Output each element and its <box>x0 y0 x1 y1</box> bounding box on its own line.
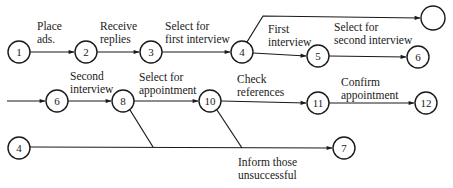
svg-text:replies: replies <box>100 33 131 46</box>
svg-text:ads.: ads. <box>37 33 55 45</box>
svg-text:4: 4 <box>239 46 245 58</box>
svg-text:12: 12 <box>421 97 432 109</box>
svg-text:appointment: appointment <box>341 89 399 102</box>
svg-text:Select for: Select for <box>334 21 379 33</box>
svg-text:First: First <box>268 23 290 35</box>
svg-text:6: 6 <box>54 95 60 107</box>
svg-text:Inform those: Inform those <box>238 156 297 168</box>
svg-text:10: 10 <box>205 95 217 107</box>
svg-text:Receive: Receive <box>100 20 137 32</box>
node-7: 7 <box>333 137 355 159</box>
edge-check-references <box>221 101 306 103</box>
svg-text:unsuccessful: unsuccessful <box>238 169 297 181</box>
label-first-interview: First interview <box>268 23 312 48</box>
label-place-ads: Place ads. <box>37 20 62 45</box>
node-3: 3 <box>140 41 162 63</box>
label-confirm-appointment: Confirm appointment <box>341 76 399 102</box>
node-4: 4 <box>231 41 253 63</box>
edge-merge-from-node-10 <box>217 110 242 148</box>
edge-first-interview <box>253 53 306 56</box>
svg-text:11: 11 <box>313 97 324 109</box>
svg-text:interview: interview <box>268 36 312 48</box>
label-check-references: Check references <box>237 73 285 98</box>
svg-text:2: 2 <box>83 46 89 58</box>
svg-text:references: references <box>237 86 285 98</box>
node-5: 5 <box>307 45 329 67</box>
node-6-row2: 6 <box>46 90 68 112</box>
node-unnumbered <box>421 6 445 30</box>
node-12: 12 <box>415 92 437 114</box>
network-diagram: 1 2 3 4 5 6 6 8 10 11 12 4 7 Place ads. … <box>0 0 453 188</box>
edge-merge-from-node-8 <box>130 110 153 147</box>
node-1: 1 <box>8 41 30 63</box>
svg-text:second interview: second interview <box>334 34 413 46</box>
svg-text:Second: Second <box>70 70 104 82</box>
svg-text:interview: interview <box>70 83 114 95</box>
svg-text:Confirm: Confirm <box>341 76 380 88</box>
svg-text:Select for: Select for <box>139 71 184 83</box>
svg-text:7: 7 <box>341 142 347 154</box>
label-second-interview: Second interview <box>70 70 114 95</box>
edge-select-second-interview <box>329 56 406 57</box>
svg-text:6: 6 <box>415 51 421 63</box>
node-10: 10 <box>199 90 221 112</box>
svg-text:5: 5 <box>315 50 321 62</box>
node-6-top: 6 <box>407 46 429 68</box>
svg-text:8: 8 <box>120 95 126 107</box>
node-8: 8 <box>112 90 134 112</box>
label-inform-unsuccessful: Inform those unsuccessful <box>238 156 297 181</box>
node-11: 11 <box>307 92 329 114</box>
svg-text:Select for: Select for <box>165 20 210 32</box>
node-2: 2 <box>75 41 97 63</box>
node-4-row3: 4 <box>8 137 30 159</box>
label-receive-replies: Receive replies <box>100 20 137 46</box>
svg-text:4: 4 <box>16 142 22 154</box>
svg-text:first interview: first interview <box>165 33 231 45</box>
svg-text:3: 3 <box>148 46 154 58</box>
label-select-first-interview: Select for first interview <box>165 20 231 45</box>
label-select-second-interview: Select for second interview <box>334 21 413 46</box>
label-select-for-appointment: Select for appointment <box>139 71 197 97</box>
svg-text:appointment: appointment <box>139 84 197 97</box>
svg-text:Place: Place <box>37 20 62 32</box>
edge-inform-unsuccessful <box>30 147 332 148</box>
svg-text:1: 1 <box>16 46 22 58</box>
svg-text:Check: Check <box>237 73 267 85</box>
